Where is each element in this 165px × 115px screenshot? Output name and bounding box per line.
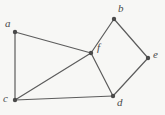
graph-vertex-b: [112, 17, 116, 21]
graph-vertex-label-a: a: [5, 18, 11, 29]
graph-vertex-label-c: c: [3, 93, 8, 104]
graph-canvas: [0, 0, 165, 115]
graph-edge-a-f: [15, 32, 91, 53]
graph-edge-c-d: [15, 96, 113, 100]
graph-edge-f-b: [91, 19, 114, 53]
graph-vertex-label-e: e: [153, 49, 158, 60]
graph-edge-f-d: [91, 53, 113, 96]
graph-vertex-d: [111, 94, 115, 98]
graph-edge-b-e: [114, 19, 148, 58]
graph-vertex-label-b: b: [118, 3, 124, 14]
graph-vertex-e: [146, 56, 150, 60]
graph-vertex-a: [13, 30, 17, 34]
graph-vertex-f: [89, 51, 93, 55]
graph-vertex-label-f: f: [97, 42, 100, 53]
edge-layer: [15, 19, 148, 100]
graph-edge-c-f: [15, 53, 91, 100]
graph-diagram: abcdef: [0, 0, 165, 115]
graph-vertex-c: [13, 98, 17, 102]
graph-edge-d-e: [113, 58, 148, 96]
graph-vertex-label-d: d: [117, 97, 123, 108]
